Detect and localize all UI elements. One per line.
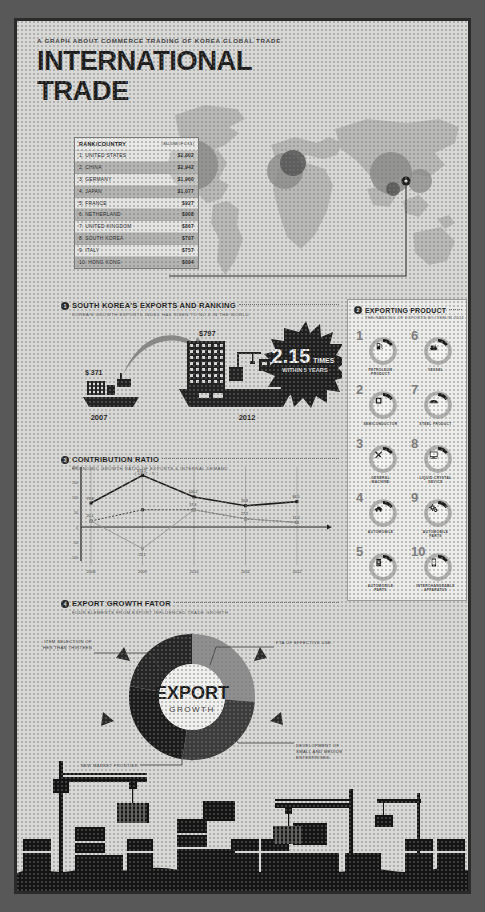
rank-country-cell: 8. SOUTH KOREA [79,236,160,241]
badge-note: WITHIN 5 YEARS [282,367,328,373]
point-label: 79.8 [87,497,94,501]
section-exports-heading: 1 SOUTH KOREA'S EXPORTS AND RANKING KORE… [61,301,339,317]
product-ring [423,390,453,420]
rank-country-cell: 2. CHINA [79,165,160,170]
data-point [244,517,247,520]
crane-far-right [375,793,421,863]
rank-value-cell: $1,960 [160,177,194,182]
rank-country-cell: 10. HONG KONG [79,260,160,265]
rank-country-cell: 3. GERMANY [79,177,160,182]
rank-country-cell: 5. FRANCE [79,201,160,206]
y-axis-tick: -50 [73,541,78,545]
callout-sme-l1: DEVELOPMENT OF [296,743,339,748]
heading-dot-rule [174,602,339,603]
bubble-korea-center [404,179,407,182]
exports-comparison-graphic: $ 371 2007 [47,319,342,437]
section-products-heading: 2 EXPORTING PRODUCT THE RANKING OF EXPOR… [354,306,462,320]
product-label: STEEL PRODUCT [409,422,462,426]
table-row: 9. ITALY$757 [75,245,198,257]
x-axis-tick: 2009 [138,569,148,574]
point-label: 20.1 [87,514,94,518]
section-title-growth: EXPORT GROWTH FATOR [72,599,171,608]
section-bullet-2: 2 [354,306,362,314]
header-kicker: A GRAPH ABOUT COMMERCE TRADING OF KOREA … [37,37,337,44]
product-rank-cell[interactable]: 10INTERCHANGEABLEAPPARATUS [409,546,462,598]
product-label: SEMICONDUCTOR [354,422,407,426]
table-row: 2. CHINA$2,942 [75,162,198,174]
product-rank-cell[interactable]: 4AUTOMOBILE [354,492,407,544]
section-subtitle-growth: FOUR ELEMENTS FROM EXPORT INFLUENCED TRA… [72,610,339,615]
bubble-japan [408,169,432,193]
col-header-country: RANK/COUNTRY [79,141,160,147]
data-point [141,508,144,511]
product-rank-number: 1 [356,329,363,342]
section-subtitle-products: THE RANKING OF EXPORTS BY ITEM IN 2012 [365,316,462,320]
product-rank-number: 3 [356,437,363,450]
rank-table: RANK/COUNTRY ( BILLIONS OF U.S.$ ) 1. UN… [74,137,199,269]
product-rank-cell[interactable]: 3GENERALMACHINE [354,438,407,490]
rank-value-cell: $797 [160,236,194,241]
smartphone-icon [432,558,436,566]
product-rank-cell[interactable]: 5AUTOMOBILEPARTS [354,546,407,598]
point-label: 27.2 [241,512,248,516]
infographic-sheet: A GRAPH ABOUT COMMERCE TRADING OF KOREA … [14,18,471,894]
product-ring [423,552,453,582]
product-rank-cell[interactable]: 7STEEL PRODUCT [409,384,462,436]
product-rank-number: 8 [411,437,418,450]
product-label: AUTOMOBILEPARTS [409,530,462,538]
table-row: 8. SOUTH KOREA$797 [75,233,198,245]
y-axis-tick: 50 [74,511,78,515]
product-label: AUTOMOBILEPARTS [354,584,407,592]
product-ring [368,444,398,474]
table-row: 7. UNITED KINGDOM$867 [75,221,198,233]
table-header-row: RANK/COUNTRY ( BILLIONS OF U.S.$ ) [75,138,198,151]
data-point [141,474,144,477]
section-title-exports: SOUTH KOREA'S EXPORTS AND RANKING [72,301,236,310]
point-label: 172.1 [137,469,146,473]
product-rank-number: 7 [411,383,418,396]
year-2012: 2012 [239,413,256,422]
product-rank-cell[interactable]: 2SEMICONDUCTOR [354,384,407,436]
point-label: -72.1 [138,553,146,557]
product-rank-number: 5 [356,545,363,558]
product-label: INTERCHANGEABLEAPPARATUS [409,584,462,592]
product-rank-cell[interactable]: 9AUTOMOBILEPARTS [409,492,462,544]
construction-skyline [17,751,471,891]
product-rank-cell[interactable]: 8LIQUID CRYSTALDEVICE [409,438,462,490]
value-2012: $797 [199,329,216,338]
x-axis-tick: 2012 [293,569,303,574]
section-bullet-4: 4 [61,600,69,608]
point-label: 57.4 [190,503,197,507]
y-axis-tick: 150 [72,481,78,485]
data-point [244,504,247,507]
product-rank-cell[interactable]: 6VESSEL [409,330,462,382]
ground [17,867,471,891]
rank-value-cell: $2,802 [160,153,194,158]
product-label: AUTOMOBILE [354,530,407,534]
product-label: GENERALMACHINE [354,476,407,484]
heading-dot-rule [239,304,339,305]
product-ring [423,336,453,366]
ship-2007-icon [83,373,139,407]
product-rank-cell[interactable]: 1PETROLEUMPRODUCT [354,330,407,382]
point-label: 100.2 [189,490,198,494]
product-label: PETROLEUMPRODUCT [354,368,407,376]
x-axis-tick: 2011 [241,569,250,574]
product-rank-number: 2 [356,383,363,396]
rank-country-cell: 6. NETHERLAND [79,212,160,217]
table-row: 3. GERMANY$1,960 [75,174,198,186]
y-axis-tick: 100 [72,496,78,500]
y-axis-tick: -100 [71,556,78,560]
point-label: 84.5 [293,495,300,499]
rank-country-cell: 1. UNITED STATES [79,153,160,158]
product-ring [368,390,398,420]
rank-country-cell: 7. UNITED KINGDOM [79,224,160,229]
table-row: 6. NETHERLAND$908 [75,209,198,221]
rank-country-cell: 9. ITALY [79,248,160,253]
callout-item-selection-l2: OTHER THAN THIRTEEN [42,645,92,650]
product-ring [423,498,453,528]
bubble-china [386,182,400,196]
value-2007: $ 371 [85,369,103,377]
section-title-products: EXPORTING PRODUCT [365,307,446,314]
table-row: 1. UNITED STATES$2,802 [75,151,198,163]
